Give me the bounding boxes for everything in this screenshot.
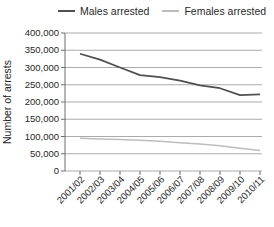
y-tick-label: 150,000 [25,113,59,124]
y-tick-label: 50,000 [30,148,59,159]
y-tick-label: 350,000 [25,44,59,55]
y-tick-label: 300,000 [25,62,59,73]
series-line-females [80,138,260,150]
y-tick-label: 400,000 [25,27,59,38]
y-tick-label: 0 [54,165,59,176]
series-line-males [80,54,260,95]
y-tick-label: 200,000 [25,96,59,107]
line-chart-canvas: 050,000100,000150,000200,000250,000300,0… [0,0,274,227]
y-tick-label: 250,000 [25,79,59,90]
y-axis-title: Number of arrests [1,60,13,144]
y-tick-label: 100,000 [25,131,59,142]
arrests-line-chart-figure: Males arrested Females arrested 050,0001… [0,0,274,227]
